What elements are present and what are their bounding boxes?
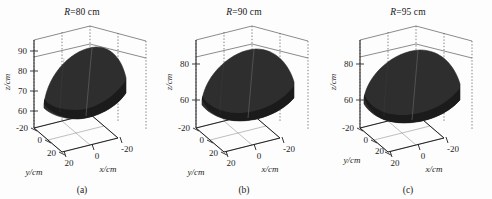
panel-b-ytick-2: 20 [209, 148, 219, 158]
panel-a-ztick-3: 60 [18, 106, 28, 116]
panel-c-ztick-1: 60 [344, 95, 354, 105]
panel-c-ytick-0: -20 [342, 123, 354, 133]
panel-a-caption: (a) [0, 185, 164, 195]
panel-a-z-axis-label: z/cm [2, 73, 12, 91]
panel-c-z-ticks: 80 60 [344, 59, 364, 105]
panel-b-ytick-1: 0 [200, 135, 205, 145]
panel-b-ytick-0: -20 [178, 123, 190, 133]
panel-b-ztick-1: 60 [180, 95, 190, 105]
panel-a: R=80 cm [0, 0, 164, 199]
panel-b-plot: 80 60 z/cm -20 0 20 20 0 -20 [162, 20, 326, 180]
panel-b-x-axis-label: x/cm [261, 164, 279, 174]
panel-b-z-ticks: 80 60 [180, 59, 200, 105]
panel-b-z-axis-label-var: z/cm [164, 73, 174, 91]
panel-c-z-axis-label: z/cm [328, 73, 338, 91]
panel-a-x-axis-label: x/cm [99, 164, 117, 174]
panel-a-ztick-0: 90 [18, 46, 28, 56]
panel-c-z-axis-label-var: z/cm [328, 73, 338, 91]
panel-c-xtick-1: 0 [421, 151, 426, 161]
panel-c: R=95 cm [326, 0, 490, 199]
panel-c-xtick-0: 20 [391, 158, 401, 168]
panel-a-xtick-1: 0 [95, 151, 100, 161]
panel-a-ytick-1: 0 [38, 135, 43, 145]
panel-a-z-axis-label-var: z/cm [2, 73, 12, 91]
panel-b-y-axis-label: y/cm [187, 167, 205, 177]
panel-a-plot: 90 80 70 60 z/cm -20 0 20 [0, 20, 164, 180]
panel-a-ytick-2: 20 [47, 148, 57, 158]
panel-c-x-axis-label-var: x/cm [425, 164, 443, 174]
panel-c-ytick-2: 20 [375, 146, 385, 156]
panel-a-ytick-0: -20 [16, 123, 28, 133]
panel-a-y-axis-label-var: y/cm [25, 167, 43, 177]
panel-a-y-axis-label: y/cm [25, 167, 43, 177]
panel-c-xtick-2: -20 [447, 144, 459, 154]
panel-c-x-axis-label: x/cm [425, 164, 443, 174]
panel-c-title-value: =95 cm [396, 7, 425, 17]
panel-b-ztick-0: 80 [180, 59, 190, 69]
panel-b-y-ticks: -20 0 20 [178, 123, 227, 158]
panel-a-y-ticks: -20 0 20 [16, 123, 65, 158]
panel-a-floor-grid [34, 114, 118, 152]
panel-c-plot: 80 60 z/cm -20 0 20 20 0 -20 [326, 20, 490, 180]
panel-b-x-axis-label-var: x/cm [261, 164, 279, 174]
panel-b-caption: (b) [162, 185, 326, 195]
figure-container: R=80 cm [0, 0, 492, 199]
panel-a-ztick-2: 70 [18, 86, 28, 96]
panel-a-title: R=80 cm [0, 7, 164, 17]
panel-a-title-value: =80 cm [70, 7, 99, 17]
panel-a-xtick-0: 20 [65, 158, 75, 168]
panel-b: R=90 cm [162, 0, 326, 199]
panel-c-caption: (c) [326, 185, 490, 195]
panel-b-xtick-0: 20 [227, 158, 237, 168]
panel-b-z-axis-label: z/cm [164, 73, 174, 91]
panel-b-xtick-1: 0 [257, 151, 262, 161]
panel-b-title: R=90 cm [162, 7, 326, 17]
panel-a-ztick-1: 80 [18, 66, 28, 76]
panel-b-y-axis-label-var: y/cm [187, 167, 205, 177]
panel-c-y-ticks: -20 0 20 [342, 123, 391, 156]
panel-b-xtick-2: -20 [283, 144, 295, 154]
panel-c-title: R=95 cm [326, 7, 490, 17]
panel-c-ztick-0: 80 [344, 59, 354, 69]
panel-c-ytick-1: 0 [364, 135, 369, 145]
panel-b-title-value: =90 cm [232, 7, 261, 17]
panel-c-surface [364, 50, 460, 123]
panel-c-y-axis-label: y/cm [343, 155, 361, 165]
panel-c-y-axis-label-var: y/cm [343, 155, 361, 165]
panel-a-surface [44, 47, 126, 119]
panel-a-x-axis-label-var: x/cm [99, 164, 117, 174]
panel-a-xtick-2: -20 [121, 144, 133, 154]
